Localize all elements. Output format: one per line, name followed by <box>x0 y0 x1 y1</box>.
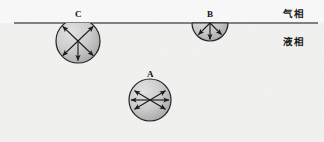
molecule-label-b: B <box>207 10 213 19</box>
surface-tension-figure: 气相 液相 C B A <box>0 0 324 142</box>
molecule-label-a: A <box>147 70 154 79</box>
panel-background <box>0 0 324 142</box>
molecule-label-c: C <box>75 10 82 19</box>
gas-phase-label: 气相 <box>283 9 304 19</box>
molecule-C <box>56 19 100 63</box>
liquid-phase-label: 液相 <box>283 37 304 47</box>
molecule-A <box>129 79 171 121</box>
figure-canvas <box>0 0 324 142</box>
